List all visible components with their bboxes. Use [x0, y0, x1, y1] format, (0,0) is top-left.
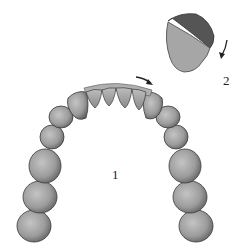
- tooth-detail-label: 2: [223, 74, 230, 87]
- arch-arrow-icon: [136, 77, 153, 85]
- tooth-incisor-2: [102, 88, 116, 106]
- tooth-detail: [166, 14, 214, 72]
- tooth-right-molar-1: [173, 181, 207, 213]
- tooth-right-premolar-1: [164, 125, 188, 149]
- tooth-incisor-3: [116, 88, 132, 108]
- arch-label: 1: [112, 168, 119, 181]
- tooth-left-premolar-2: [29, 149, 61, 183]
- left-teeth: [17, 92, 88, 242]
- detail-arrow-icon: [219, 40, 227, 59]
- tooth-left-molar-1: [23, 181, 57, 213]
- tooth-left-molar-2: [17, 210, 51, 242]
- incisors: [84, 83, 152, 110]
- right-teeth: [143, 92, 213, 242]
- tooth-incisor-1: [86, 89, 102, 108]
- tooth-right-molar-2: [179, 210, 213, 242]
- tooth-right-premolar-2: [169, 149, 201, 183]
- tooth-left-premolar-1: [40, 125, 64, 149]
- dental-diagram: [0, 0, 237, 251]
